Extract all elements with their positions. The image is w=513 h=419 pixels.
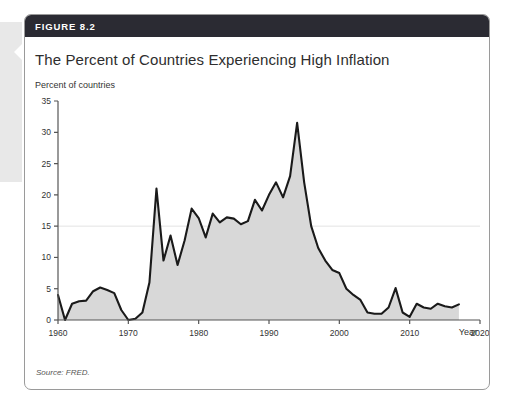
figure-card: FIGURE 8.2 The Percent of Countries Expe… (24, 14, 490, 390)
y-tick-label-20: 20 (42, 190, 52, 200)
figure-title: The Percent of Countries Experiencing Hi… (25, 37, 489, 68)
x-axis: 1960197019801990200020102020 (49, 320, 490, 338)
page-decoration-arrow (0, 22, 26, 182)
x-tick-label-1970: 1970 (119, 328, 138, 338)
y-tick-label-30: 30 (42, 127, 52, 137)
inflation-area-chart: 05101520253035 1960197019801990200020102… (25, 92, 490, 342)
x-tick-label-1980: 1980 (189, 328, 208, 338)
chart-plot-area: 05101520253035 1960197019801990200020102… (25, 92, 490, 342)
y-tick-label-35: 35 (42, 96, 52, 106)
y-tick-label-0: 0 (46, 315, 51, 325)
area-fill-path (58, 123, 459, 320)
source-note: Source: FRED. (36, 368, 90, 377)
x-tick-label-1960: 1960 (49, 328, 68, 338)
y-axis: 05101520253035 (42, 96, 58, 325)
y-tick-label-10: 10 (42, 252, 52, 262)
x-tick-label-2000: 2000 (330, 328, 349, 338)
x-tick-label-2010: 2010 (400, 328, 419, 338)
x-tick-label-1990: 1990 (260, 328, 279, 338)
y-tick-label-15: 15 (42, 221, 52, 231)
figure-header-bar: FIGURE 8.2 (25, 15, 489, 37)
x-axis-label: Year (459, 327, 477, 337)
y-tick-label-25: 25 (42, 159, 52, 169)
y-axis-title: Percent of countries (25, 68, 489, 90)
figure-number-label: FIGURE 8.2 (35, 21, 96, 32)
y-tick-label-5: 5 (46, 284, 51, 294)
